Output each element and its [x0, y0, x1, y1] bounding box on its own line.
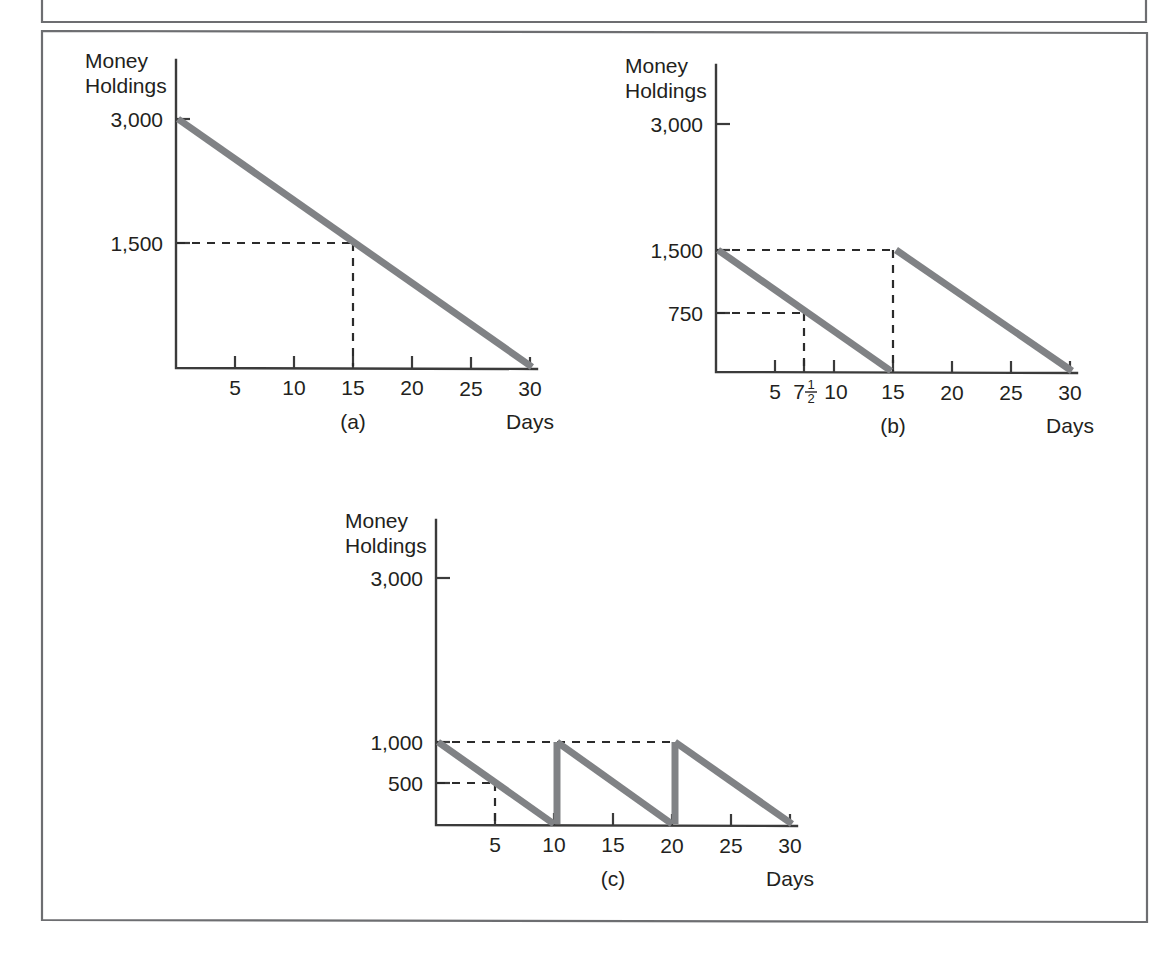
panel-c-xtick-label-20: 20	[660, 834, 683, 857]
panel-c-x-axis-title: Days	[766, 867, 814, 890]
panel-c-xtick-label-25: 25	[719, 834, 742, 857]
panel-a-y-axis-title-line1: Money	[85, 49, 149, 72]
panel-c-xtick-label-30: 30	[778, 834, 801, 857]
panel-c-ytick-label-3000: 3,000	[370, 567, 423, 590]
figure-page: Money Holdings 3,000 1,500 5 10 15 20 25…	[0, 0, 1175, 969]
panel-b-xtick-label-7-whole: 7	[793, 380, 805, 403]
panel-b-money-holdings-segment-1	[718, 250, 891, 371]
panel-a-ytick-label-1500: 1,500	[110, 232, 163, 255]
panel-b-ytick-label-1500: 1,500	[650, 239, 703, 262]
panel-b-xtick-label-5: 5	[769, 380, 781, 403]
panel-a-xtick-label-15: 15	[341, 376, 364, 399]
panel-b-y-axis-title-line1: Money	[625, 54, 689, 77]
panel-c-y-axis-title-line2: Holdings	[345, 534, 427, 557]
panel-b-x-axis-title: Days	[1046, 414, 1094, 437]
panel-c-xtick-label-15: 15	[601, 833, 624, 856]
panel-b-xtick-label-fraction-numerator: 1	[807, 377, 814, 392]
panel-a-money-holdings-line	[178, 119, 532, 367]
panel-b-xtick-label-fraction-denominator: 2	[807, 391, 814, 406]
panel-a-xtick-label-25: 25	[459, 377, 482, 400]
panel-a-xtick-label-10: 10	[282, 376, 305, 399]
panel-c-money-holdings-segment-2	[557, 742, 672, 824]
panel-a-xtick-label-5: 5	[229, 376, 241, 399]
panel-a-caption: (a)	[340, 410, 366, 433]
panel-b-xtick-label-25: 25	[999, 381, 1022, 404]
panel-b-xtick-label-7point5: 7 1 2	[793, 377, 817, 406]
panel-c: Money Holdings 3,000 1,000 500 5 10 15 2…	[345, 509, 814, 890]
figure-canvas: Money Holdings 3,000 1,500 5 10 15 20 25…	[0, 0, 1175, 969]
panel-a: Money Holdings 3,000 1,500 5 10 15 20 25…	[85, 49, 554, 433]
frame-main-box	[42, 31, 1147, 922]
panel-c-ytick-label-500: 500	[388, 772, 423, 795]
panel-c-money-holdings-segment-3	[675, 742, 792, 824]
panel-a-axes	[176, 60, 537, 369]
panel-b-axes	[716, 65, 1077, 373]
panel-a-y-axis-title-line2: Holdings	[85, 74, 167, 97]
panel-b-xtick-label-15: 15	[881, 380, 904, 403]
panel-b-caption: (b)	[880, 414, 906, 437]
panel-a-xtick-label-30: 30	[518, 377, 541, 400]
panel-b-money-holdings-segment-2	[896, 250, 1072, 371]
frame-upper-partial-box	[42, 0, 1146, 22]
panel-c-xtick-label-5: 5	[489, 833, 501, 856]
panel-c-caption: (c)	[601, 867, 626, 890]
panel-b-ytick-label-750: 750	[668, 302, 703, 325]
panel-b-ytick-label-3000: 3,000	[650, 113, 703, 136]
panel-a-ytick-label-3000: 3,000	[110, 108, 163, 131]
panel-b-y-axis-title-line2: Holdings	[625, 79, 707, 102]
panel-b-xtick-label-30: 30	[1058, 381, 1081, 404]
panel-c-xtick-label-10: 10	[542, 833, 565, 856]
panel-b-xtick-label-20: 20	[940, 381, 963, 404]
panel-c-ytick-label-1000: 1,000	[370, 731, 423, 754]
panel-a-x-axis-title: Days	[506, 410, 554, 433]
panel-b: Money Holdings 3,000 1,500 750 5 7 1	[625, 54, 1094, 437]
panel-a-xtick-label-20: 20	[400, 376, 423, 399]
panel-b-xtick-label-10: 10	[824, 380, 847, 403]
panel-c-y-axis-title-line1: Money	[345, 509, 409, 532]
